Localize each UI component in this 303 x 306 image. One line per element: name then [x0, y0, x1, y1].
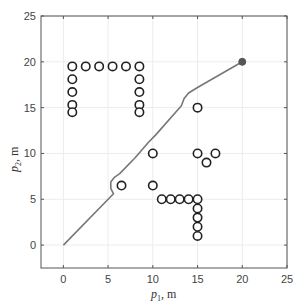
obstacle-marker [193, 149, 201, 157]
obstacle-marker [158, 195, 166, 203]
obstacle-marker [68, 88, 76, 96]
obstacle-marker [211, 149, 219, 157]
obstacle-marker [175, 195, 183, 203]
x-tick-label: 5 [105, 273, 111, 285]
goal-marker [239, 58, 246, 65]
obstacle-marker [135, 88, 143, 96]
obstacle-marker [68, 75, 76, 83]
obstacle-marker [193, 103, 201, 111]
y-tick-label: 0 [30, 239, 36, 251]
obstacle-marker [135, 62, 143, 70]
x-tick-label: 0 [60, 273, 66, 285]
obstacle-marker [68, 62, 76, 70]
chart: 05101520250510152025 p1, m p2, m [0, 0, 303, 306]
y-tick-label: 10 [24, 147, 36, 159]
obstacle-marker [68, 108, 76, 116]
obstacle-marker [149, 181, 157, 189]
y-axis-label: p2, m [7, 146, 23, 173]
obstacle-marker [184, 195, 192, 203]
obstacle-marker [135, 108, 143, 116]
y-tick-label: 20 [24, 56, 36, 68]
x-tick-label: 25 [281, 273, 293, 285]
y-tick-label: 15 [24, 102, 36, 114]
y-tick-label: 25 [24, 10, 36, 22]
obstacle-marker [167, 195, 175, 203]
x-tick-label: 20 [236, 273, 248, 285]
x-axis-label: p1, m [150, 287, 177, 303]
obstacle-marker [135, 75, 143, 83]
obstacle-marker [149, 149, 157, 157]
x-tick-label: 15 [191, 273, 203, 285]
obstacle-marker [193, 195, 201, 203]
obstacle-marker [95, 62, 103, 70]
obstacle-marker [108, 62, 116, 70]
obstacle-marker [193, 213, 201, 221]
obstacle-marker [202, 158, 210, 166]
plot-series [63, 58, 245, 245]
x-tick-label: 10 [147, 273, 159, 285]
obstacle-marker [193, 223, 201, 231]
obstacle-marker [82, 62, 90, 70]
obstacle-marker [117, 181, 125, 189]
obstacle-marker [122, 62, 130, 70]
y-tick-label: 5 [30, 193, 36, 205]
obstacle-marker [193, 232, 201, 240]
obstacle-marker [193, 204, 201, 212]
